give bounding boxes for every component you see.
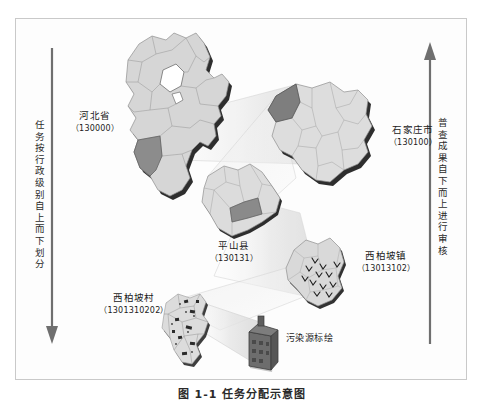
diagram-canvas <box>0 0 484 401</box>
left-axis-text: 任务按行政级别自上而下划分 <box>34 120 44 271</box>
figure-caption: 图 1-1 任务分配示意图 <box>0 385 484 401</box>
left-down-arrow <box>46 48 58 344</box>
right-axis-text: 普查成果自下而上进行审核 <box>437 118 447 257</box>
figure-root: 河北省 （130000） 石家庄市 （130100） 平山县 （130131） … <box>0 0 484 401</box>
right-up-arrow <box>424 42 436 344</box>
label-pollution-source: 污染源标绘 <box>286 331 333 344</box>
map-xibaipo-village[interactable] <box>162 294 210 367</box>
